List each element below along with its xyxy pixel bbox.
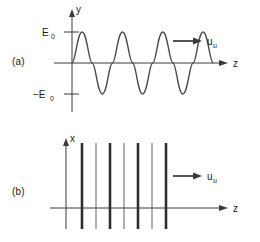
- positive-amplitude-label-subscript: 0: [51, 33, 55, 40]
- panel-a-field-profile: (a) y z E 0 −E 0 u u: [0, 0, 260, 121]
- velocity-label: u: [207, 36, 213, 47]
- x-axis-arrow-icon: [63, 138, 69, 146]
- z-axis-label: z: [233, 58, 238, 69]
- y-axis-arrow-icon: [69, 9, 75, 17]
- velocity-label: u: [207, 171, 213, 182]
- velocity-arrow-head-icon: [193, 172, 202, 179]
- velocity-arrow-head-icon: [193, 37, 202, 44]
- figure-root: (a) y z E 0 −E 0 u u: [0, 0, 260, 242]
- y-axis-label: y: [76, 4, 81, 15]
- z-axis-arrow-icon: [219, 60, 228, 66]
- velocity-label-subscript: u: [213, 177, 217, 184]
- panel-b-plot: x z u u: [0, 121, 260, 242]
- z-axis-arrow-icon: [219, 205, 228, 211]
- positive-amplitude-label: E: [42, 27, 49, 38]
- negative-amplitude-label-subscript: 0: [50, 95, 54, 102]
- panel-a-plot: y z E 0 −E 0 u u: [0, 0, 260, 121]
- z-axis-label: z: [233, 203, 238, 214]
- x-axis-label: x: [70, 133, 75, 144]
- negative-amplitude-label: −E: [33, 89, 46, 100]
- panel-b-wavefronts: (b) x z u u: [0, 121, 260, 242]
- velocity-label-subscript: u: [213, 42, 217, 49]
